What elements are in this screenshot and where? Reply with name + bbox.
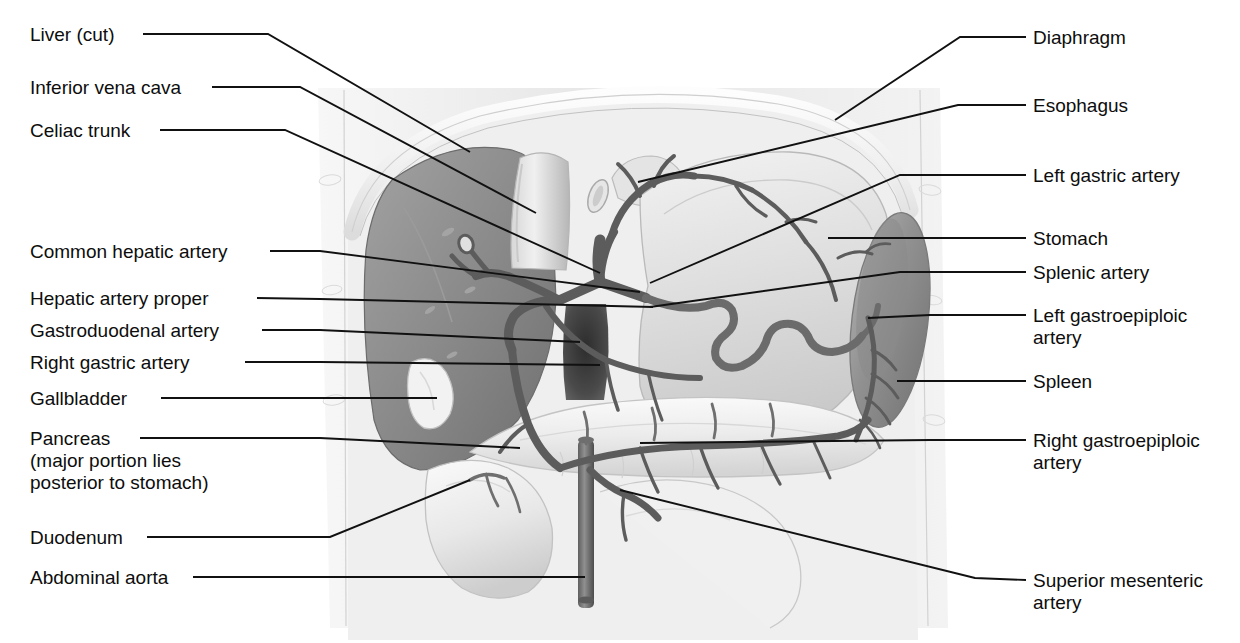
label-stomach[interactable]: Stomach — [1033, 228, 1108, 250]
label-left-gastric-artery[interactable]: Left gastric artery — [1033, 165, 1180, 187]
label-left-gastroepiploic-artery[interactable]: Left gastroepiploic artery — [1033, 305, 1187, 349]
label-celiac-trunk[interactable]: Celiac trunk — [30, 120, 130, 142]
label-inferior-vena-cava[interactable]: Inferior vena cava — [30, 77, 181, 99]
label-pancreas[interactable]: Pancreas (major portion lies posterior t… — [30, 428, 208, 494]
label-spleen[interactable]: Spleen — [1033, 371, 1092, 393]
figure-canvas: Liver (cut)Inferior vena cavaCeliac trun… — [0, 0, 1240, 643]
label-abdominal-aorta[interactable]: Abdominal aorta — [30, 567, 168, 589]
label-gallbladder[interactable]: Gallbladder — [30, 388, 127, 410]
label-splenic-artery[interactable]: Splenic artery — [1033, 262, 1149, 284]
label-common-hepatic-artery[interactable]: Common hepatic artery — [30, 241, 227, 263]
label-superior-mesenteric-artery[interactable]: Superior mesenteric artery — [1033, 570, 1203, 614]
label-diaphragm[interactable]: Diaphragm — [1033, 27, 1126, 49]
label-liver-cut[interactable]: Liver (cut) — [30, 24, 114, 46]
label-gastroduodenal-artery[interactable]: Gastroduodenal artery — [30, 320, 219, 342]
label-right-gastric-artery[interactable]: Right gastric artery — [30, 352, 189, 374]
label-duodenum[interactable]: Duodenum — [30, 527, 123, 549]
label-esophagus[interactable]: Esophagus — [1033, 95, 1128, 117]
label-hepatic-artery-proper[interactable]: Hepatic artery proper — [30, 288, 208, 310]
label-right-gastroepiploic-artery[interactable]: Right gastroepiploic artery — [1033, 430, 1200, 474]
